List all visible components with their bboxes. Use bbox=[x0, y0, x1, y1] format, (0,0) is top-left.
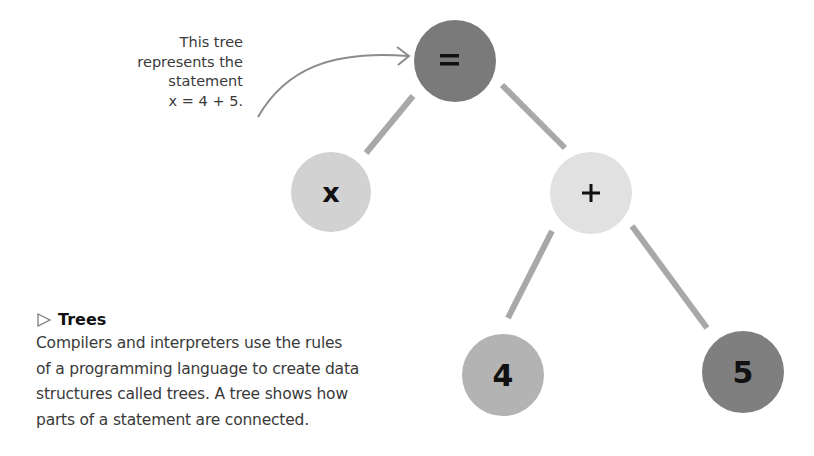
annotation-line: This tree bbox=[83, 33, 243, 53]
caption-title: Trees bbox=[58, 309, 106, 331]
annotation-line: x = 4 + 5. bbox=[83, 92, 243, 112]
edge-plus-four bbox=[508, 231, 552, 318]
edge-plus-five bbox=[632, 226, 707, 328]
node-x: x bbox=[291, 152, 371, 232]
edge-equals-x bbox=[366, 96, 413, 153]
trees-caption: Trees Compilers and interpreters use the… bbox=[36, 309, 436, 433]
node-plus: + bbox=[550, 152, 632, 234]
annotation-line: statement bbox=[83, 72, 243, 92]
caption-heading: Trees bbox=[36, 309, 436, 331]
node-five-label: 5 bbox=[733, 355, 754, 390]
edge-equals-plus bbox=[502, 85, 565, 148]
tree-annotation: This tree represents the statement x = 4… bbox=[83, 33, 243, 111]
node-five: 5 bbox=[702, 331, 784, 413]
caption-line: parts of a statement are connected. bbox=[36, 408, 436, 434]
caption-line: structures called trees. A tree shows ho… bbox=[36, 382, 436, 408]
caption-body: Compilers and interpreters use the rules… bbox=[36, 331, 436, 433]
triangle-right-outline-icon bbox=[36, 312, 52, 328]
tree-edges bbox=[366, 85, 707, 328]
annotation-line: represents the bbox=[83, 53, 243, 73]
arrow-curve bbox=[258, 55, 408, 117]
node-equals: = bbox=[414, 20, 496, 102]
node-four: 4 bbox=[462, 334, 544, 416]
node-four-label: 4 bbox=[493, 358, 514, 393]
node-x-label: x bbox=[322, 177, 339, 208]
annotation-arrow bbox=[258, 47, 409, 117]
caption-line: Compilers and interpreters use the rules bbox=[36, 331, 436, 357]
caption-line: of a programming language to create data bbox=[36, 357, 436, 383]
